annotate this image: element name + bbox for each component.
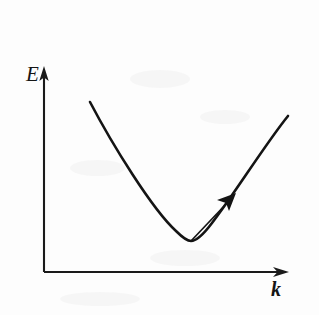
axes-group (39, 66, 289, 277)
transition-arrow-shaft (191, 202, 228, 241)
x-axis-label: k (271, 279, 281, 299)
band-diagram-canvas (0, 0, 319, 315)
transition-arrowhead-icon (217, 193, 236, 211)
band-diagram-figure: E k (0, 0, 319, 315)
transition-arrow-group (191, 193, 236, 241)
dispersion-curve-group (90, 102, 288, 241)
dispersion-curve (90, 102, 288, 241)
y-axis-label: E (26, 64, 39, 85)
